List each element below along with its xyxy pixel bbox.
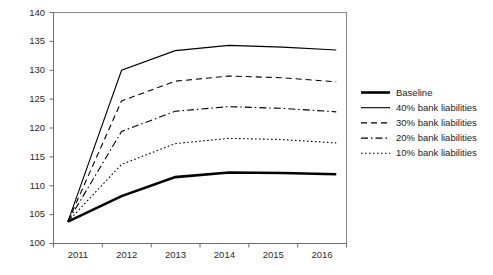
legend-item-label: 20% bank liabilities xyxy=(396,132,477,143)
legend-item-label: 40% bank liabilities xyxy=(396,102,477,113)
line-chart: 140 135 130 125 120 115 110 105 100 2011… xyxy=(0,0,493,275)
y-tick-label: 100 xyxy=(29,237,45,248)
x-tick-label: 2014 xyxy=(214,249,235,260)
legend-item-label: 30% bank liabilities xyxy=(396,117,477,128)
x-tick-label: 2015 xyxy=(263,249,284,260)
y-tick-label: 140 xyxy=(29,7,45,18)
legend-item-label: 10% bank liabilities xyxy=(396,147,477,158)
y-tick-label: 115 xyxy=(30,151,45,162)
y-tick-label: 125 xyxy=(29,93,45,104)
x-tick-label: 2016 xyxy=(312,249,333,260)
x-tick-label: 2012 xyxy=(116,249,137,260)
x-tick-label: 2013 xyxy=(165,249,186,260)
y-tick-label: 105 xyxy=(29,208,45,219)
y-axis-tick-labels: 140 135 130 125 120 115 110 105 100 xyxy=(29,7,45,249)
chart-container: 140 135 130 125 120 115 110 105 100 2011… xyxy=(0,0,493,275)
y-tick-label: 110 xyxy=(30,180,45,191)
x-tick-label: 2011 xyxy=(68,249,88,260)
y-tick-label: 130 xyxy=(29,64,45,75)
y-tick-label: 120 xyxy=(29,122,45,133)
legend-item-label: Baseline xyxy=(396,87,432,98)
y-tick-label: 135 xyxy=(29,35,45,46)
